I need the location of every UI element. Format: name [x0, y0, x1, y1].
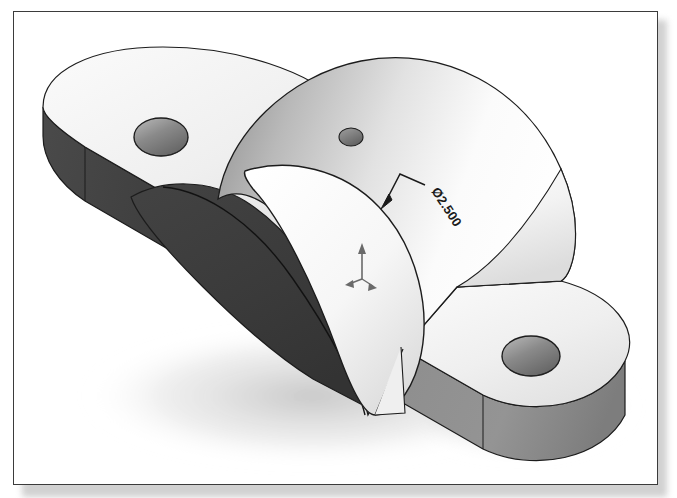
- screenshot-root: Ø2.500: [0, 0, 677, 498]
- oil-hole[interactable]: [339, 128, 363, 146]
- cad-model-drawing: Ø2.500: [13, 11, 658, 485]
- left-mount-hole[interactable]: [134, 118, 188, 156]
- cad-viewport[interactable]: Ø2.500: [13, 11, 658, 485]
- right-mount-hole[interactable]: [502, 336, 560, 376]
